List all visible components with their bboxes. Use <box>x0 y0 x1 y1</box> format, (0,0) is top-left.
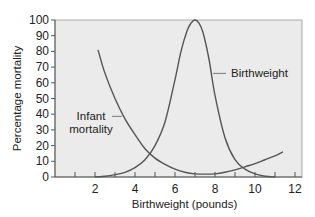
y-tick-label: 60 <box>36 76 50 90</box>
y-axis-label: Percentage mortality <box>11 46 23 152</box>
infant-mortality-annotation-line2: mortality <box>69 123 113 135</box>
x-tick-label: 12 <box>288 182 302 196</box>
y-tick-label: 80 <box>36 44 50 58</box>
y-tick-label: 50 <box>36 92 50 106</box>
x-tick-label: 10 <box>248 182 262 196</box>
x-tick-label: 2 <box>92 182 99 196</box>
y-tick-label: 0 <box>42 170 49 184</box>
y-tick-label: 20 <box>36 139 50 153</box>
y-tick-label: 100 <box>29 13 49 27</box>
x-tick-label: 4 <box>132 182 139 196</box>
y-tick-label: 40 <box>36 107 50 121</box>
x-axis-label: Birthweight (pounds) <box>132 198 238 210</box>
chart: 0102030405060708090100 24681012 Birthwei… <box>0 0 315 217</box>
y-tick-label: 90 <box>36 29 50 43</box>
y-tick-label: 30 <box>36 123 50 137</box>
y-tick-label: 10 <box>36 154 50 168</box>
x-tick-label: 6 <box>172 182 179 196</box>
infant-mortality-annotation-line1: Infant <box>77 110 107 122</box>
x-tick-label: 8 <box>212 182 219 196</box>
plot-area <box>55 20 302 177</box>
y-tick-label: 70 <box>36 60 50 74</box>
birthweight-annotation: Birthweight <box>231 67 289 79</box>
